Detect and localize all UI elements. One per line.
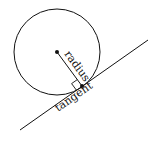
center-point — [55, 50, 59, 54]
tangent-label: tangent — [52, 79, 95, 115]
tangent-diagram: radius tangent — [0, 0, 151, 145]
